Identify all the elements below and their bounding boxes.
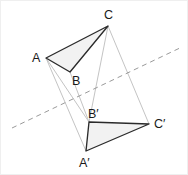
connector-line-c-cprime [108,26,149,124]
geometry-figure-canvas: A B C A′ B′ C′ [0,0,188,175]
vertex-label-b: B [72,74,80,88]
vertex-label-a: A [32,51,41,65]
vertex-label-c: C [104,8,113,22]
vertex-label-c-prime: C′ [154,117,166,131]
triangle-abc-fill [46,26,108,72]
vertex-label-b-prime: B′ [88,107,99,121]
figure-border [1,1,188,175]
vertex-label-a-prime: A′ [79,156,90,170]
connector-line-a-aprime [46,58,86,151]
reflection-diagram: A B C A′ B′ C′ [0,0,188,175]
